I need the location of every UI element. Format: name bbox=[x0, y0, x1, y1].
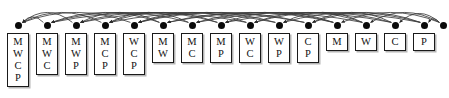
node-label-box[interactable]: C bbox=[384, 33, 406, 51]
node-dot-icon[interactable] bbox=[305, 22, 312, 29]
node-label-box[interactable]: M bbox=[326, 33, 348, 51]
node-letter: M bbox=[158, 36, 167, 48]
node-letter: M bbox=[42, 36, 51, 48]
node-dot-icon[interactable] bbox=[392, 22, 399, 29]
node-label-box[interactable]: CP bbox=[297, 33, 319, 63]
node-letter: M bbox=[71, 36, 80, 48]
node-letter: W bbox=[158, 48, 168, 60]
node-letter: C bbox=[246, 48, 253, 60]
node-letter: P bbox=[131, 60, 137, 72]
node-letter: M bbox=[216, 36, 225, 48]
node-dot-icon[interactable] bbox=[160, 22, 167, 29]
node-label-box[interactable]: P bbox=[413, 33, 435, 51]
node-letter: W bbox=[361, 36, 371, 48]
node-letter: W bbox=[13, 48, 23, 60]
node-letter: W bbox=[274, 36, 284, 48]
node-letter: C bbox=[101, 48, 108, 60]
node-letter: P bbox=[305, 48, 311, 60]
node-letter: P bbox=[73, 60, 79, 72]
node-letter: C bbox=[391, 36, 398, 48]
node-letter: C bbox=[14, 60, 21, 72]
node-letter: W bbox=[42, 48, 52, 60]
node-label-box[interactable]: MWCP bbox=[7, 33, 29, 87]
node-letter: W bbox=[245, 36, 255, 48]
node-letter: M bbox=[13, 36, 22, 48]
node-letter: P bbox=[15, 72, 21, 84]
node-dot-icon[interactable] bbox=[44, 22, 51, 29]
node-dot-icon[interactable] bbox=[102, 22, 109, 29]
node-label-box[interactable]: WCP bbox=[123, 33, 145, 75]
node-letter: P bbox=[218, 48, 224, 60]
node-label-box[interactable]: MWC bbox=[36, 33, 58, 75]
node-dot-icon[interactable] bbox=[334, 22, 341, 29]
node-dot-icon[interactable] bbox=[15, 22, 22, 29]
node-label-box[interactable]: MW bbox=[152, 33, 174, 63]
node-letter: C bbox=[43, 60, 50, 72]
node-dot-icon[interactable] bbox=[421, 22, 428, 29]
node-letter: C bbox=[130, 48, 137, 60]
node-letter: M bbox=[100, 36, 109, 48]
node-label-box[interactable]: WC bbox=[239, 33, 261, 63]
node-dot-icon[interactable] bbox=[189, 22, 196, 29]
node-label-box[interactable]: MCP bbox=[94, 33, 116, 75]
node-dot-icon[interactable] bbox=[440, 22, 447, 29]
node-letter: P bbox=[102, 60, 108, 72]
node-layer: MWCPMWCMWPMCPWCPMWMCMPWCWPCPMWCP bbox=[0, 0, 449, 98]
node-letter: P bbox=[276, 48, 282, 60]
node-letter: C bbox=[188, 48, 195, 60]
node-dot-icon[interactable] bbox=[73, 22, 80, 29]
node-dot-icon[interactable] bbox=[276, 22, 283, 29]
node-label-box[interactable]: WP bbox=[268, 33, 290, 63]
node-letter: M bbox=[332, 36, 341, 48]
node-letter: W bbox=[129, 36, 139, 48]
node-label-box[interactable]: MP bbox=[210, 33, 232, 63]
node-dot-icon[interactable] bbox=[218, 22, 225, 29]
node-label-box[interactable]: MC bbox=[181, 33, 203, 63]
hasse-diagram-figure: MWCPMWCMWPMCPWCPMWMCMPWCWPCPMWCP bbox=[0, 0, 449, 98]
node-letter: P bbox=[421, 36, 427, 48]
node-dot-icon[interactable] bbox=[247, 22, 254, 29]
node-label-box[interactable]: MWP bbox=[65, 33, 87, 75]
node-label-box[interactable]: W bbox=[355, 33, 377, 51]
node-dot-icon[interactable] bbox=[363, 22, 370, 29]
node-dot-icon[interactable] bbox=[131, 22, 138, 29]
node-letter: C bbox=[304, 36, 311, 48]
node-letter: W bbox=[71, 48, 81, 60]
node-letter: M bbox=[187, 36, 196, 48]
